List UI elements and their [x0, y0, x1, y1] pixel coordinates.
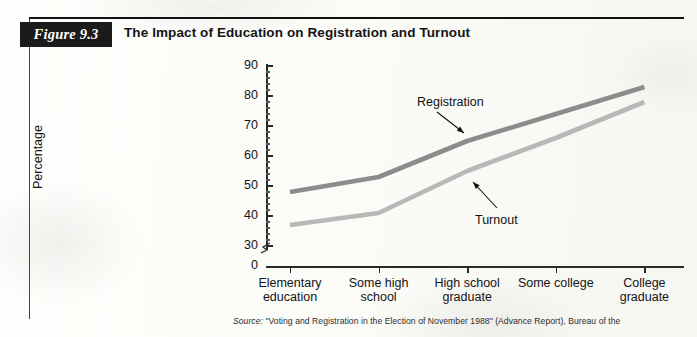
source-note: Source: "Voting and Registration in the …	[233, 316, 620, 326]
annotation-arrow-registration	[437, 112, 464, 133]
series-line-turnout	[290, 102, 644, 225]
line-chart: Percentage 908070605040300 Elementaryedu…	[0, 0, 697, 300]
annotation-arrow-turnout	[473, 182, 497, 208]
series-annotation-registration: Registration	[417, 95, 484, 109]
series-annotation-turnout: Turnout	[475, 213, 518, 227]
source-text: "Voting and Registration in the Election…	[263, 316, 620, 326]
source-prefix: Source:	[233, 316, 263, 326]
plot-area	[0, 0, 697, 300]
